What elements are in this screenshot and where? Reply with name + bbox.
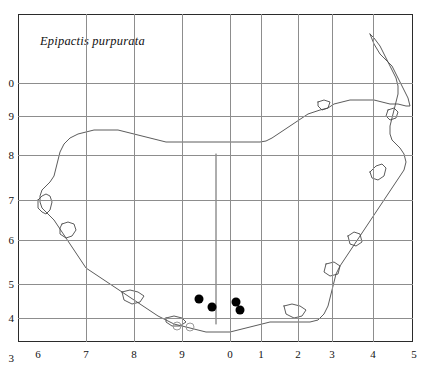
y-axis-tick-label: 7 [4,194,14,206]
grid-line-vertical [134,14,135,342]
record-dot-open [186,323,195,332]
species-name-label: Epipactis purpurata [40,34,145,49]
grid-line-horizontal [18,200,413,201]
x-axis-tick-label: 6 [35,348,41,360]
grid-line-horizontal [18,155,413,156]
grid-line-vertical [86,14,87,342]
y-axis-tick-label: 8 [4,149,14,161]
grid-line-horizontal [18,83,413,84]
x-axis-tick-label: 0 [227,348,233,360]
x-axis-tick-label: 3 [329,348,335,360]
record-dot-filled [195,295,204,304]
record-dot-open [173,322,182,331]
grid-line-vertical [373,14,374,342]
record-dot-filled [208,303,217,312]
x-axis-tick-label: 9 [179,348,185,360]
grid-line-horizontal [18,318,413,319]
x-axis-tick-label: 7 [83,348,89,360]
x-axis-tick-label: 5 [411,348,417,360]
grid-line-horizontal [18,116,413,117]
grid-line-vertical [230,14,231,342]
grid-line-vertical [332,14,333,342]
distribution-map-figure: Epipactis purpurata 678901234509876543 [0,0,439,375]
y-axis-tick-label: 0 [4,77,14,89]
x-axis-tick-label: 2 [295,348,301,360]
grid-line-horizontal [18,240,413,241]
y-axis-tick-label: 3 [4,352,14,364]
x-axis-tick-label: 4 [370,348,376,360]
y-axis-tick-label: 4 [4,312,14,324]
y-axis-tick-label: 9 [4,110,14,122]
grid-line-vertical [261,14,262,342]
grid-line-vertical [182,14,183,342]
coastline-outline [18,14,413,342]
x-axis-tick-label: 1 [258,348,264,360]
record-dot-filled [236,306,245,315]
grid-line-vertical [298,14,299,342]
y-axis-tick-label: 6 [4,234,14,246]
grid-line-horizontal [18,284,413,285]
x-axis-tick-label: 8 [131,348,137,360]
y-axis-tick-label: 5 [4,278,14,290]
